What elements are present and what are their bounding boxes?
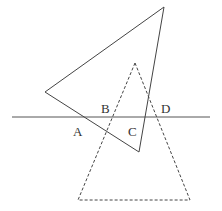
geometry-diagram: A B C D [0,0,222,211]
label-a: A [73,124,83,139]
label-c: C [128,124,137,139]
label-b: B [101,101,110,116]
solid-triangle [45,7,164,152]
label-d: D [161,101,170,116]
